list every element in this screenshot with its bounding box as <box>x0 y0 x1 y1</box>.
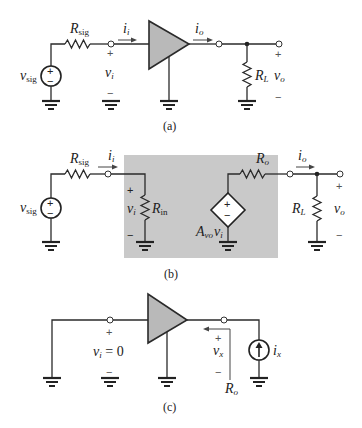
amplifier-circuit-figure: + − vsig Rsig ii + vi − io RL + vo <box>0 0 362 428</box>
label-vo: vo <box>274 68 285 84</box>
label-ix: ix <box>273 343 281 359</box>
vo-minus: − <box>275 91 281 103</box>
resistor-rsig-icon <box>65 170 90 178</box>
ground-icon <box>43 378 61 386</box>
vi-minus: − <box>127 229 133 241</box>
wire <box>51 174 65 199</box>
label-io: io <box>298 148 307 164</box>
caption-a: (a) <box>163 119 176 133</box>
vx-minus: − <box>215 366 221 378</box>
panel-a: + − vsig Rsig ii + vi − io RL + vo <box>20 21 285 133</box>
arrow-head-icon <box>131 38 137 43</box>
vi-plus: + <box>106 326 112 338</box>
ground-icon <box>160 101 178 109</box>
caption-c: (c) <box>163 400 176 414</box>
arrow-head-icon <box>112 165 118 170</box>
ground-icon <box>308 242 326 250</box>
ground-icon <box>238 101 256 109</box>
dep-minus: − <box>224 209 230 221</box>
label-rl: RL <box>254 68 269 84</box>
label-vx: vx <box>213 343 223 359</box>
label-ii: ii <box>108 148 115 164</box>
ground-icon <box>250 378 268 386</box>
label-vsig: vsig <box>20 200 37 216</box>
resistor-rsig-icon <box>65 40 90 48</box>
label-rsig: Rsig <box>69 21 90 37</box>
vo-plus: + <box>275 48 281 60</box>
panel-c: + vi = 0 − ix + vx − Ro (c) <box>43 294 281 414</box>
label-io: io <box>195 21 204 37</box>
arrow-head-icon <box>203 327 209 332</box>
label-ii: ii <box>123 21 130 37</box>
ground-icon <box>158 378 176 386</box>
output-terminal <box>216 41 222 47</box>
vi-plus: + <box>127 184 133 196</box>
arrow-head-icon <box>309 165 315 170</box>
resistor-rl-icon <box>313 196 321 221</box>
vi-minus: − <box>107 87 113 99</box>
output-terminal-right <box>337 171 343 177</box>
label-rsig: Rsig <box>69 151 90 167</box>
vo-minus: − <box>336 229 342 241</box>
source-minus: − <box>47 75 53 87</box>
label-vi: vi <box>105 65 114 81</box>
vi-plus: + <box>107 47 113 59</box>
caption-b: (b) <box>164 267 178 281</box>
label-ro: Ro <box>224 381 239 397</box>
vi-minus: − <box>106 366 112 378</box>
label-vi-zero: vi = 0 <box>93 344 124 360</box>
resistor-rl-icon <box>243 62 251 87</box>
output-terminal <box>221 317 227 323</box>
ground-icon <box>102 101 120 109</box>
ground-icon <box>101 378 119 386</box>
input-terminal <box>107 317 113 323</box>
output-terminal <box>287 171 293 177</box>
wire <box>227 320 259 340</box>
output-terminal-right <box>276 41 282 47</box>
vo-plus: + <box>336 180 342 192</box>
input-terminal <box>105 171 111 177</box>
arrow-head-icon <box>207 38 213 43</box>
ground-icon <box>42 101 60 109</box>
label-rl: RL <box>291 201 306 217</box>
panel-b: + − vsig Rsig ii Rin + vi − + − Avovi Ro… <box>20 148 345 281</box>
label-vsig: vsig <box>20 68 37 84</box>
wire-source-top <box>51 44 65 67</box>
source-minus: − <box>47 207 53 219</box>
label-vo: vo <box>334 201 345 217</box>
label-ro: Ro <box>255 151 270 167</box>
ground-icon <box>42 242 60 250</box>
